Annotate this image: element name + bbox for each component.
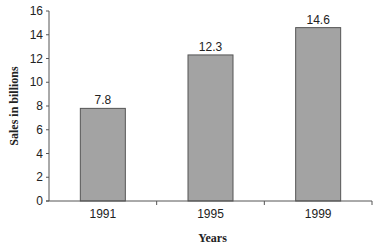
y-axis-title: Sales in billions: [7, 66, 21, 146]
data-label: 12.3: [199, 40, 223, 54]
chart-root: 02468101214167.8199112.3199514.61999Year…: [0, 0, 379, 250]
y-tick-label: 4: [36, 147, 43, 161]
bar-1995: [188, 55, 233, 201]
bar-1991: [80, 108, 125, 201]
y-tick-label: 8: [36, 99, 43, 113]
bar-1999: [296, 28, 341, 201]
y-tick-label: 14: [30, 28, 44, 42]
y-tick-label: 16: [30, 4, 44, 18]
x-axis-title: Years: [198, 231, 227, 245]
data-label: 14.6: [306, 13, 330, 27]
data-label: 7.8: [94, 93, 111, 107]
y-tick-label: 0: [36, 194, 43, 208]
x-tick-label: 1995: [197, 207, 224, 221]
y-tick-label: 6: [36, 123, 43, 137]
bar-chart: 02468101214167.8199112.3199514.61999Year…: [0, 0, 379, 250]
x-tick-label: 1999: [305, 207, 332, 221]
x-tick-label: 1991: [89, 207, 116, 221]
y-tick-label: 10: [30, 75, 44, 89]
y-tick-label: 2: [36, 170, 43, 184]
y-tick-label: 12: [30, 52, 44, 66]
